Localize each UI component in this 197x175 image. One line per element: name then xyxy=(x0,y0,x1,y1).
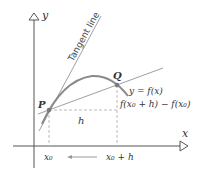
x0-plus-h-label: x₀ + h xyxy=(106,152,134,162)
x-axis-label: x xyxy=(182,127,189,140)
run-label: h xyxy=(78,115,84,126)
x-axis-arrow-icon xyxy=(180,141,188,151)
point-p xyxy=(47,108,52,113)
curve-f xyxy=(42,76,128,124)
limit-arrow-head-icon xyxy=(67,155,72,159)
rise-label: f(x₀ + h) − f(x₀) xyxy=(119,99,191,109)
derivative-diagram: y x Tangent line P Q y = f(x) f(x₀ + h) … xyxy=(0,0,197,175)
point-q xyxy=(115,83,120,88)
tangent-line-label: Tangent line xyxy=(66,10,102,64)
curve-label: y = f(x) xyxy=(128,86,163,96)
y-axis-label: y xyxy=(41,9,49,22)
x0-label: x₀ xyxy=(44,152,53,162)
tangent-line xyxy=(39,16,101,131)
y-axis-arrow-icon xyxy=(29,13,39,20)
point-q-label: Q xyxy=(113,70,122,81)
point-p-label: P xyxy=(37,99,46,110)
